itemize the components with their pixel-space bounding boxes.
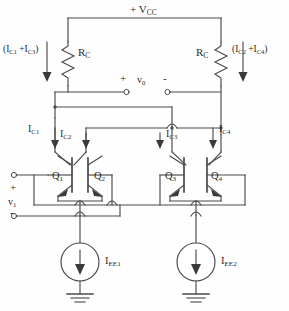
output-voltage-label: v0 xyxy=(137,74,145,86)
output-terminal-plus xyxy=(124,89,129,94)
q2-label: Q2 xyxy=(94,170,105,183)
resistor-rc-right-body xyxy=(215,42,227,86)
vcc-label: + VCC xyxy=(130,3,157,17)
q4-label: Q4 xyxy=(211,170,222,183)
junction-dot-left xyxy=(53,105,56,108)
q2-collector-slope xyxy=(88,156,102,165)
right-branch-current-label: (IC2 +IC4) xyxy=(232,44,267,55)
ic4-label: IC4 xyxy=(219,123,230,135)
output-plus-sign: + xyxy=(120,72,126,84)
ic2-label: IC2 xyxy=(60,128,71,140)
ic1-label: IC1 xyxy=(28,123,39,135)
q1-emitter-arrow xyxy=(57,189,68,197)
output-minus-sign: - xyxy=(163,72,167,84)
input-terminal-plus xyxy=(11,172,16,177)
ic1-arrow-head xyxy=(51,140,59,149)
resistor-rc-right-label: RC xyxy=(196,46,208,60)
q1-collector-slope xyxy=(58,156,72,165)
q4-collector-slope xyxy=(207,156,221,165)
q3-label: Q3 xyxy=(165,170,176,183)
iee1-label: IEE1 xyxy=(105,255,121,268)
output-terminal-minus xyxy=(165,89,170,94)
input-minus-sign: - xyxy=(10,206,14,218)
ic3-label: IC3 xyxy=(166,128,177,140)
circuit-diagram: + VCC RC RC (IC1 +IC3) (IC2 +IC4) + v0 -… xyxy=(0,0,289,311)
ic3-arrow-head xyxy=(156,140,164,149)
q2-collector-lead xyxy=(74,152,86,165)
left-branch-current-label: (IC1 +IC3) xyxy=(3,44,38,55)
input-plus-sign: + xyxy=(10,181,16,193)
q1-label: Q1 xyxy=(52,170,63,183)
ic4-arrow-head xyxy=(209,140,217,149)
resistor-rc-left-body xyxy=(62,42,74,86)
q2-emitter-arrow xyxy=(92,189,103,197)
iee2-label: IEE2 xyxy=(221,255,237,268)
resistor-rc-left-label: RC xyxy=(78,46,90,60)
left-branch-arrow-head xyxy=(43,72,52,82)
right-branch-arrow-head xyxy=(239,72,248,82)
ic2-arrow-head xyxy=(82,140,90,149)
